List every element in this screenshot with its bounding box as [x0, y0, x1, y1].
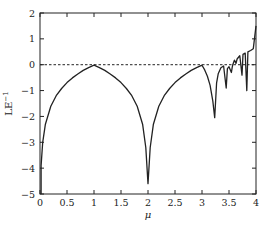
x-tick-label: 3.5 [221, 197, 236, 208]
x-tick-labels: 00.511.522.533.54 [37, 197, 259, 208]
y-tick-labels: 210−1−2−3−4−5 [21, 8, 35, 200]
y-tick-label: −3 [21, 137, 35, 148]
x-tick-label: 0 [37, 197, 43, 208]
y-tick-label: 0 [29, 59, 35, 70]
lyapunov-curve [41, 26, 256, 194]
x-tick-label: 3 [199, 197, 205, 208]
y-tick-label: −5 [21, 189, 35, 200]
y-axis-label: LE−1 [2, 91, 14, 115]
y-axis-ticks [40, 13, 256, 194]
y-tick-label: −4 [21, 163, 35, 174]
x-tick-label: 4 [253, 197, 259, 208]
x-axis-ticks [40, 13, 256, 194]
x-tick-label: 1.5 [113, 197, 128, 208]
x-axis-label: μ [145, 209, 152, 220]
y-tick-label: −2 [21, 111, 35, 122]
x-tick-label: 1 [91, 197, 97, 208]
lyapunov-chart: 00.511.522.533.54 210−1−2−3−4−5 μ LE−1 [0, 0, 267, 225]
y-tick-label: 2 [29, 8, 35, 19]
x-tick-label: 2 [145, 197, 151, 208]
plot-frame [40, 13, 256, 194]
y-tick-label: 1 [29, 33, 35, 44]
x-tick-label: 0.5 [59, 197, 74, 208]
y-tick-label: −1 [21, 85, 35, 96]
x-tick-label: 2.5 [167, 197, 182, 208]
